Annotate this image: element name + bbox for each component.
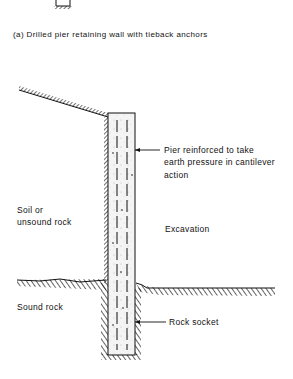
pier-note-line2: earth pressure in cantilever — [164, 157, 275, 168]
excavation-label: Excavation — [165, 224, 210, 235]
previous-figure-fragment — [54, 0, 72, 9]
soil-face-hatch — [104, 117, 108, 283]
rock-surface-left — [17, 279, 106, 290]
rock-surface-right — [136, 283, 275, 296]
pier-note-line1: Pier reinforced to take — [164, 145, 254, 156]
sound-rock-label: Sound rock — [17, 302, 63, 313]
drilled-pier — [108, 113, 135, 355]
pier-leader — [135, 148, 160, 152]
figure-caption: (a) Drilled pier retaining wall with tie… — [13, 29, 208, 40]
pier-note-line3: action — [164, 170, 188, 181]
soil-label-line2: unsound rock — [17, 217, 72, 228]
retaining-wall-diagram — [0, 0, 293, 379]
ground-surface — [19, 86, 108, 117]
rock-socket-leader — [135, 320, 166, 324]
rock-socket-label: Rock socket — [169, 317, 219, 328]
soil-label-line1: Soil or — [17, 205, 43, 216]
